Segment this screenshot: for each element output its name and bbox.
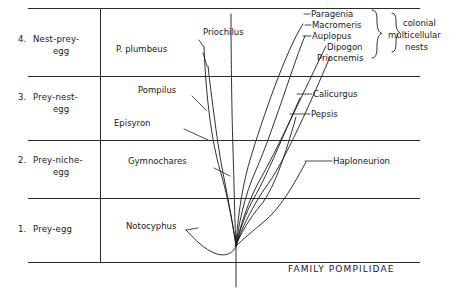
genus-label-priocnemis: Priocnemis <box>317 53 363 63</box>
annotation-line-colonial: colonial <box>403 18 436 28</box>
leader-episyron <box>184 129 208 140</box>
family-caption: FAMILY POMPILIDAE <box>288 264 394 274</box>
stage-label-4-line2: egg <box>53 46 69 56</box>
genus-label-calicurgus: Calicurgus <box>313 89 357 99</box>
stage-label-3-line2: egg <box>53 104 69 114</box>
genus-label-paragenia: Paragenia <box>311 9 353 19</box>
genus-label-macromeris: Macromeris <box>312 20 362 30</box>
phylogeny-branches <box>186 14 330 287</box>
branch-to-pepsis <box>236 117 296 246</box>
branch-to-notocyphus <box>186 230 236 255</box>
genus-label-priochilus: Priochilus <box>203 27 244 37</box>
leader-priochilus <box>199 40 203 46</box>
genus-label-dipogon: Dipogon <box>327 42 363 52</box>
stage-label-2-line1: Prey-niche- <box>33 155 83 165</box>
stage-label-3-line1: Prey-nest- <box>33 92 78 102</box>
brace-large-five-genera <box>372 10 382 58</box>
genus-label-pepsis: Pepsis <box>311 109 338 119</box>
leader-pompilus <box>192 96 206 110</box>
annotation-line-nests: nests <box>405 42 428 52</box>
genus-label-notocyphus: Notocyphus <box>126 221 176 231</box>
stage-number-2: 2. <box>18 155 26 165</box>
stage-label-4-line1: Nest-prey- <box>33 34 79 44</box>
branch-to-calicurgus <box>236 98 300 246</box>
genus-label-gymnochares: Gymnochares <box>128 156 187 166</box>
stage-label-2-line2: egg <box>53 167 69 177</box>
leader-lines <box>184 14 332 230</box>
stage-number-3: 3. <box>18 92 26 102</box>
genus-label-haploneurion: Haploneurion <box>333 156 390 166</box>
branch-to-paragenia <box>231 14 236 246</box>
stage-label-1-line1: Prey-egg <box>33 224 72 234</box>
stage-number-1: 1. <box>18 224 26 234</box>
genus-label-auplopus: Auplopus <box>312 31 351 41</box>
genus-label-p-plumbeus: P. plumbeus <box>116 44 167 54</box>
stage-number-4: 4. <box>18 34 26 44</box>
figure-canvas: 4. Nest-prey- egg 3. Prey-nest- egg 2. P… <box>0 0 449 288</box>
branch-to-priocnemis <box>236 57 330 246</box>
genus-label-episyron: Episyron <box>114 118 150 128</box>
annotation-line-multicellular: multicellular <box>388 30 441 40</box>
genus-label-pompilus: Pompilus <box>138 85 176 95</box>
leader-notocyphus <box>186 228 198 230</box>
